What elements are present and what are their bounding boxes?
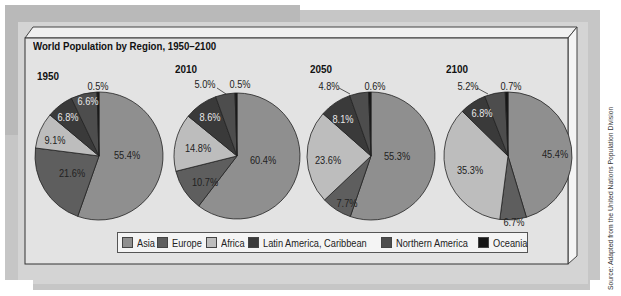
pct-2100-northern-america: 5.2% xyxy=(457,80,478,92)
year-label-1950: 1950 xyxy=(37,70,59,82)
pct-1950-latin-america: 6.8% xyxy=(57,111,78,123)
pct-2100-europe: 6.7% xyxy=(503,216,524,228)
pct-2050-northern-america: 4.8% xyxy=(318,80,339,92)
pct-2010-africa: 14.8% xyxy=(185,142,211,154)
legend-label: Asia xyxy=(137,237,155,249)
pct-2050-europe: 7.7% xyxy=(336,197,357,209)
pct-2010-northern-america: 5.0% xyxy=(194,78,215,90)
source-credit: Source: Adapted from the United Nations … xyxy=(606,107,615,290)
legend-label: Oceania xyxy=(493,237,527,249)
pct-2050-oceania: 0.6% xyxy=(364,80,385,92)
pct-1950-oceania: 0.5% xyxy=(87,80,108,92)
pct-2010-oceania: 0.5% xyxy=(229,78,250,90)
pct-1950-asia: 55.4% xyxy=(114,149,140,161)
legend-label: Africa xyxy=(221,237,245,249)
legend-label: Europe xyxy=(172,237,202,249)
legend-label: Latin America, Caribbean xyxy=(263,237,367,249)
pct-2050-africa: 23.6% xyxy=(315,154,341,166)
swatch-africa-icon xyxy=(206,237,217,248)
chart-legend: Asia Europe Africa Latin America, Caribb… xyxy=(117,232,528,253)
legend-item-oceania: Oceania xyxy=(478,237,532,249)
pct-2050-asia: 55.3% xyxy=(384,150,410,162)
swatch-latin-america-icon xyxy=(248,237,259,248)
swatch-oceania-icon xyxy=(478,237,489,248)
pct-1950-africa: 9.1% xyxy=(44,134,65,146)
swatch-europe-icon xyxy=(157,237,168,248)
pct-2050-latin-america: 8.1% xyxy=(332,113,353,125)
pct-1950-northern-america: 6.6% xyxy=(77,95,98,107)
legend-item-europe: Europe xyxy=(157,237,206,249)
swatch-northern-america-icon xyxy=(381,237,392,248)
pct-2100-latin-america: 6.8% xyxy=(471,107,492,119)
pct-2010-latin-america: 8.6% xyxy=(199,111,220,123)
pct-2100-africa: 35.3% xyxy=(457,164,483,176)
pct-2100-oceania: 0.7% xyxy=(500,80,521,92)
chart-title: World Population by Region, 1950–2100 xyxy=(33,40,216,52)
legend-item-asia: Asia xyxy=(122,237,157,249)
pct-2010-europe: 10.7% xyxy=(192,176,218,188)
year-label-2100: 2100 xyxy=(446,63,468,75)
legend-item-northern-america: Northern America xyxy=(381,237,478,249)
pct-2100-asia: 45.4% xyxy=(542,148,568,160)
legend-label: Northern America xyxy=(396,237,468,249)
year-label-2010: 2010 xyxy=(175,63,197,75)
pct-2010-asia: 60.4% xyxy=(250,154,276,166)
year-label-2050: 2050 xyxy=(310,63,332,75)
swatch-asia-icon xyxy=(122,237,133,248)
legend-item-africa: Africa xyxy=(206,237,248,249)
pct-1950-europe: 21.6% xyxy=(59,167,85,179)
legend-item-latin-america: Latin America, Caribbean xyxy=(248,237,381,249)
